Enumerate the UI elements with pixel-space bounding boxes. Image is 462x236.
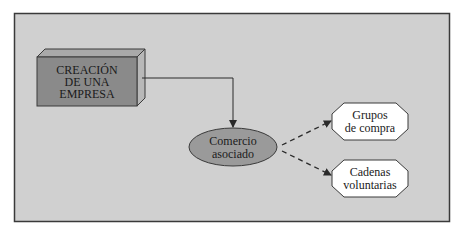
- commerce-line-2: asociado: [212, 147, 254, 161]
- chains-line-2: voluntarias: [343, 178, 397, 192]
- chains-line-1: Cadenas: [350, 165, 391, 179]
- node-purchasing-groups: Grupos de compra: [332, 103, 408, 140]
- box-top-face: [37, 49, 145, 57]
- groups-line-1: Grupos: [352, 108, 388, 122]
- node-voluntary-chains: Cadenas voluntarias: [332, 160, 408, 197]
- company-creation-line-3: EMPRESA: [59, 87, 115, 101]
- commerce-line-1: Comercio: [209, 134, 256, 148]
- diagram-canvas: CREACIÓN DE UNA EMPRESA Comercio asociad…: [0, 0, 462, 236]
- groups-line-2: de compra: [345, 121, 396, 135]
- node-associated-commerce: Comercio asociado: [189, 128, 277, 166]
- node-company-creation: CREACIÓN DE UNA EMPRESA: [37, 49, 145, 106]
